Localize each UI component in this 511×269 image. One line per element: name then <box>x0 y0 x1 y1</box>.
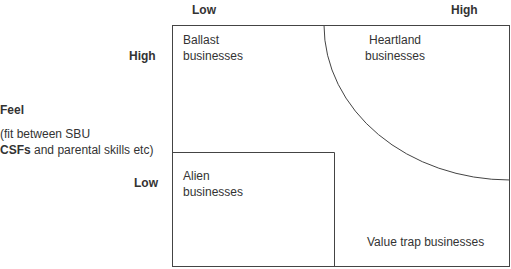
y-axis-subtitle-line2: CSFs and parental skills etc) <box>0 142 153 158</box>
y-axis-low-label: Low <box>134 176 158 190</box>
x-axis-low-label: Low <box>192 3 216 17</box>
alien-line1: Alien <box>183 168 243 184</box>
quadrant-alien: Alien businesses <box>183 168 243 200</box>
heartland-line1: Heartland <box>365 32 425 48</box>
quadrant-heartland: Heartland businesses <box>365 32 425 64</box>
quadrant-ballast: Ballast businesses <box>183 32 243 64</box>
x-axis-high-label: High <box>451 3 478 17</box>
ballast-line2: businesses <box>183 48 243 64</box>
subtitle-rest-text: and parental skills etc) <box>31 143 154 157</box>
quadrant-value-trap: Value trap businesses <box>367 234 484 250</box>
alien-line2: businesses <box>183 184 243 200</box>
heartland-line2: businesses <box>365 48 425 64</box>
y-axis-subtitle-line1: (fit between SBU <box>0 126 90 142</box>
y-axis-title: Feel <box>0 102 24 118</box>
y-axis-high-label: High <box>129 49 156 63</box>
csfs-bold-text: CSFs <box>0 143 31 157</box>
ballast-line1: Ballast <box>183 32 243 48</box>
